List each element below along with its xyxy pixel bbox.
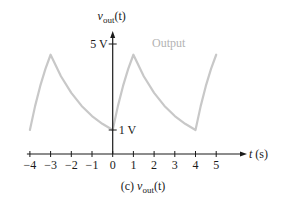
x-tick-label: −2 — [65, 158, 78, 172]
x-tick-label: −3 — [44, 158, 57, 172]
figure: −4−3−2−1012345 5 V1 V vout(t) t (s) Outp… — [0, 0, 288, 208]
x-tick-label: 1 — [130, 158, 136, 172]
x-axis-label: t (s) — [249, 147, 268, 161]
axis-layer — [27, 31, 247, 157]
caption-prefix: (c) — [121, 179, 137, 193]
chart-svg: −4−3−2−1012345 5 V1 V vout(t) t (s) Outp… — [0, 0, 288, 208]
x-tick-label: 5 — [213, 158, 219, 172]
figure-caption: (c) vout(t) — [121, 179, 166, 195]
y-axis-arrow-icon — [110, 31, 115, 38]
x-tick-label: −1 — [86, 158, 99, 172]
y-tick-label: 5 V — [90, 37, 108, 51]
caption-sub: out — [142, 185, 154, 195]
curve-layer — [30, 55, 216, 130]
y-axis-label-suffix: (t) — [114, 9, 125, 23]
y-axis-label-sub: out — [103, 15, 115, 25]
output-annotation: Output — [152, 36, 186, 50]
x-tick-label: 4 — [193, 158, 199, 172]
caption-suffix: (t) — [154, 179, 165, 193]
x-tick-label: 3 — [172, 158, 178, 172]
x-tick-label: 2 — [151, 158, 157, 172]
y-tick-label: 1 V — [119, 123, 137, 137]
y-axis-label: vout(t) — [98, 9, 126, 25]
x-axis-arrow-icon — [240, 152, 247, 157]
x-tick-label: −4 — [24, 158, 37, 172]
output-waveform-line — [30, 55, 216, 130]
x-tick-label: 0 — [110, 158, 116, 172]
x-axis-label-suffix: (s) — [252, 147, 268, 161]
